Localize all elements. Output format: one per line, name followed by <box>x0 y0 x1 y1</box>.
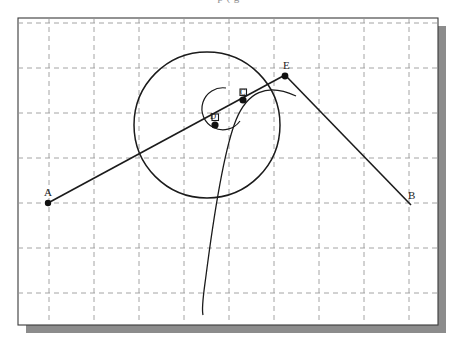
dot-A <box>45 200 51 206</box>
dot-C <box>239 96 246 103</box>
point-label-C: C <box>240 87 246 97</box>
point-label-D: D <box>210 111 216 121</box>
point-label-A: A <box>44 186 52 198</box>
dot-D <box>211 121 218 128</box>
figure-stage: p ( g <box>0 0 457 343</box>
geometry-figure: A D C E B <box>0 0 457 343</box>
point-label-E: E <box>283 59 290 71</box>
figure-frame <box>18 18 438 325</box>
dot-E <box>282 73 289 80</box>
point-label-B: B <box>408 189 415 201</box>
